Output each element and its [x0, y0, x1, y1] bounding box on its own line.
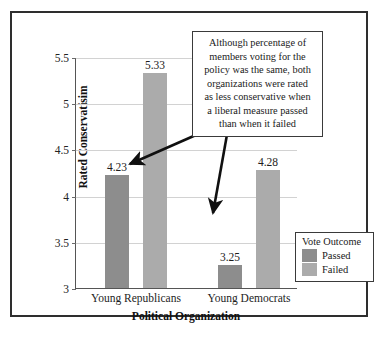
annotation-line-7: than when it failed — [197, 117, 318, 131]
ytick-4 — [72, 197, 76, 198]
legend-swatch-failed — [302, 263, 317, 276]
x-category-young-democrats: Young Democrats — [208, 292, 291, 304]
y-tick-label-4: 4 — [63, 191, 69, 203]
annotation-callout: Although percentage of members voting fo… — [192, 31, 323, 137]
y-tick-label-4.5: 4.5 — [55, 144, 69, 156]
legend-swatch-passed — [302, 249, 317, 262]
x-category-young-republicans: Young Republicans — [91, 292, 181, 304]
bar-young-democrats-failed[interactable]: 4.28 — [256, 170, 280, 288]
bar-value-young-republicans-passed: 4.23 — [107, 161, 127, 173]
y-tick-label-5: 5 — [63, 98, 69, 110]
gridline-4.5 — [76, 150, 297, 151]
ytick-5.5 — [72, 58, 76, 59]
ytick-3.5 — [72, 243, 76, 244]
legend-item-failed[interactable]: Failed — [302, 263, 368, 276]
annotation-line-3: policy was the same, both — [197, 63, 318, 77]
ytick-5 — [72, 104, 76, 105]
bar-value-young-republicans-failed: 5.33 — [145, 59, 165, 71]
ytick-4.5 — [72, 150, 76, 151]
x-axis-title: Political Organization — [75, 310, 297, 322]
annotation-line-5: as less conservative when — [197, 90, 318, 104]
annotation-line-1: Although percentage of — [197, 36, 318, 50]
legend-label-passed: Passed — [322, 250, 351, 261]
y-tick-label-5.5: 5.5 — [55, 52, 69, 64]
legend-item-passed[interactable]: Passed — [302, 249, 368, 262]
legend-title: Vote Outcome — [302, 236, 368, 247]
bar-value-young-democrats-passed: 3.25 — [220, 251, 240, 263]
annotation-line-6: a liberal measure passed — [197, 104, 318, 118]
y-tick-label-3.5: 3.5 — [55, 237, 69, 249]
annotation-line-2: members voting for the — [197, 50, 318, 64]
bar-young-republicans-passed[interactable]: 4.23 — [105, 175, 129, 289]
legend-label-failed: Failed — [322, 264, 348, 275]
figure-frame: Rated Conservatisim 5.5 5 4.5 4 3.5 3 4.… — [10, 11, 368, 317]
bar-value-young-democrats-failed: 4.28 — [258, 156, 278, 168]
y-tick-label-3: 3 — [63, 283, 69, 295]
ytick-3 — [72, 289, 76, 290]
bar-young-republicans-failed[interactable]: 5.33 — [143, 73, 167, 288]
annotation-line-4: organizations were rated — [197, 77, 318, 91]
legend: Vote Outcome Passed Failed — [295, 232, 374, 282]
bar-young-democrats-passed[interactable]: 3.25 — [218, 265, 242, 288]
